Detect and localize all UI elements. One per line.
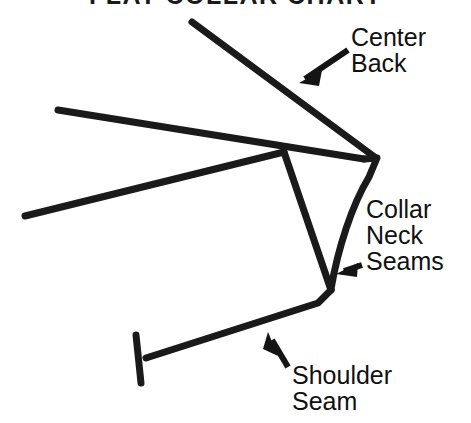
label-collar-neck-seams: Collar Neck Seams xyxy=(366,196,444,274)
shoulder-end-tick xyxy=(136,335,141,383)
neck-seam-inner-line xyxy=(284,152,331,290)
label-center-back: Center Back xyxy=(351,24,426,76)
collar-chart-page: FLAT COLLAR CHART C xyxy=(0,0,471,423)
collar-neck-seams-arrow xyxy=(336,263,362,277)
shoulder-seam-line xyxy=(146,290,331,358)
label-shoulder-seam: Shoulder Seam xyxy=(292,362,392,414)
shoulder-seam-arrow xyxy=(263,332,288,367)
center-back-arrow xyxy=(299,50,348,86)
collar-lower-edge xyxy=(25,152,284,216)
